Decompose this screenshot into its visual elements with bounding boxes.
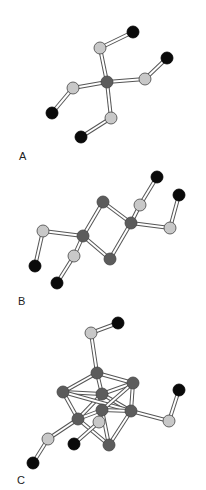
metal-atom-circle <box>57 386 69 398</box>
black-atom-circle <box>173 189 185 201</box>
light-atom-circle <box>105 112 117 124</box>
metal-atom-circle <box>77 230 89 242</box>
panel-label-c: C <box>17 474 25 486</box>
black-atom-circle <box>68 438 80 450</box>
black-atom-circle <box>127 26 139 38</box>
light-atom-circle <box>163 415 175 427</box>
metal-atom-circle <box>125 217 137 229</box>
light-atom-circle <box>67 82 79 94</box>
light-atom-circle <box>164 222 176 234</box>
metal-atom-circle <box>125 405 137 417</box>
metal-atom-circle <box>72 413 84 425</box>
black-atom-circle <box>173 384 185 396</box>
metal-atom-circle <box>103 439 115 451</box>
black-atom-circle <box>151 171 163 183</box>
light-atom-circle <box>139 73 151 85</box>
panel-label-b: B <box>18 295 25 307</box>
black-atom-circle <box>112 317 124 329</box>
metal-atom-circle <box>96 388 108 400</box>
metal-atom-circle <box>127 377 139 389</box>
black-atom-circle <box>29 260 41 272</box>
molecule-a <box>46 26 173 143</box>
panel-label-a: A <box>19 150 26 162</box>
light-atom-circle <box>134 199 146 211</box>
molecule-b <box>29 171 185 289</box>
light-atom-circle <box>37 225 49 237</box>
light-atom-circle <box>94 42 106 54</box>
metal-atom-circle <box>97 196 109 208</box>
light-atom-circle <box>68 250 80 262</box>
light-atom-circle <box>42 433 54 445</box>
black-atom-circle <box>51 277 63 289</box>
metal-atom-circle <box>96 404 108 416</box>
metal-atom-circle <box>91 367 103 379</box>
metal-atom-circle <box>101 76 113 88</box>
black-atom-circle <box>46 107 58 119</box>
light-atom-circle <box>93 416 105 428</box>
black-atom-circle <box>75 131 87 143</box>
metal-atom-circle <box>104 253 116 265</box>
molecular-structures-diagram <box>0 0 206 490</box>
molecule-c <box>27 317 185 469</box>
light-atom-circle <box>85 327 97 339</box>
black-atom-circle <box>161 52 173 64</box>
black-atom-circle <box>27 457 39 469</box>
